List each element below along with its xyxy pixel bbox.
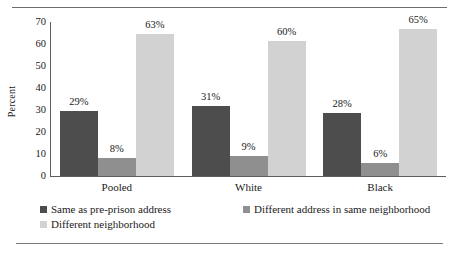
y-axis-title: Percent — [6, 72, 17, 132]
legend-row-2: Different neighborhood — [40, 218, 450, 233]
y-axis-tick-labels: 70 60 50 40 30 20 10 0 — [24, 18, 46, 176]
x-label-black: Black — [314, 181, 446, 193]
plot-area: Percent 70 60 50 40 30 20 10 0 29% 8% 63… — [0, 18, 459, 188]
bar-white-same-as-pre-prison-address[interactable]: 31% — [192, 106, 230, 176]
bar-value-label: 29% — [69, 96, 88, 107]
y-tick-0: 0 — [41, 171, 46, 181]
top-divider-rule — [12, 7, 447, 8]
bar-value-label: 60% — [277, 26, 296, 37]
x-label-pooled: Pooled — [51, 181, 183, 193]
legend-label: Different neighborhood — [51, 218, 155, 231]
bar-black-different-address-same-neighborhood[interactable]: 6% — [361, 163, 399, 177]
legend-label: Same as pre-prison address — [51, 203, 171, 216]
y-tick-50: 50 — [36, 61, 47, 71]
bar-group-white: 31% 9% 60% — [183, 18, 315, 176]
x-label-white: White — [183, 181, 315, 193]
legend-swatch-icon — [40, 206, 47, 213]
legend-item-same-as-pre-prison-address[interactable]: Same as pre-prison address — [40, 203, 243, 216]
bar-black-same-as-pre-prison-address[interactable]: 28% — [323, 113, 361, 176]
bar-value-label: 31% — [201, 91, 220, 102]
y-tick-10: 10 — [36, 149, 47, 159]
bar-white-different-address-same-neighborhood[interactable]: 9% — [230, 156, 268, 176]
legend-label: Different address in same neighborhood — [254, 203, 430, 216]
legend-row-1: Same as pre-prison address Different add… — [40, 203, 450, 218]
y-tick-40: 40 — [36, 83, 47, 93]
y-tick-30: 30 — [36, 105, 47, 115]
y-tick-60: 60 — [36, 39, 47, 49]
bar-pooled-different-address-same-neighborhood[interactable]: 8% — [98, 158, 136, 176]
legend-item-different-neighborhood[interactable]: Different neighborhood — [40, 218, 155, 231]
figure-container: Percent 70 60 50 40 30 20 10 0 29% 8% 63… — [0, 0, 459, 253]
legend-swatch-icon — [40, 221, 47, 228]
bar-value-label: 63% — [145, 19, 164, 30]
bar-value-label: 65% — [409, 14, 428, 25]
y-tick-20: 20 — [36, 127, 47, 137]
x-axis-category-labels: Pooled White Black — [51, 181, 446, 193]
chart-legend: Same as pre-prison address Different add… — [40, 203, 450, 233]
bar-value-label: 28% — [333, 98, 352, 109]
bar-value-label: 6% — [373, 148, 387, 159]
bar-white-different-neighborhood[interactable]: 60% — [268, 41, 306, 176]
legend-item-different-address-in-same-neighborhood[interactable]: Different address in same neighborhood — [243, 203, 430, 216]
bar-pooled-different-neighborhood[interactable]: 63% — [136, 34, 174, 176]
bar-black-different-neighborhood[interactable]: 65% — [399, 29, 437, 176]
bar-value-label: 8% — [110, 143, 124, 154]
x-axis-baseline — [50, 176, 446, 177]
bar-pooled-same-as-pre-prison-address[interactable]: 29% — [60, 111, 98, 177]
bottom-divider-rule — [16, 243, 443, 244]
bar-group-black: 28% 6% 65% — [314, 18, 446, 176]
bar-groups: 29% 8% 63% 31% 9% 60% — [51, 18, 446, 176]
bar-value-label: 9% — [242, 141, 256, 152]
legend-swatch-icon — [243, 206, 250, 213]
y-tick-70: 70 — [36, 17, 47, 27]
bar-group-pooled: 29% 8% 63% — [51, 18, 183, 176]
